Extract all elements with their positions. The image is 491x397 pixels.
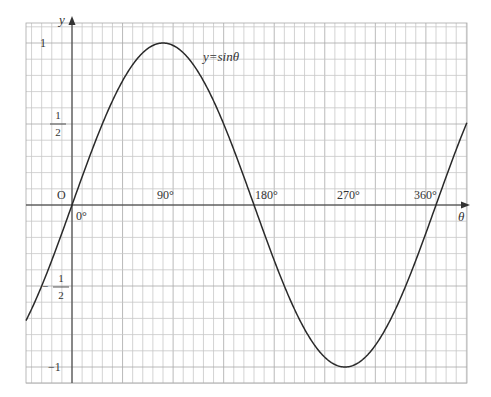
x-tick-90: 90°	[157, 188, 174, 202]
svg-text:2: 2	[58, 289, 64, 301]
x-tick-180: 180°	[255, 188, 278, 202]
svg-text:2: 2	[55, 126, 61, 138]
y-tick-1: 1	[40, 36, 46, 50]
x-axis-label: θ	[458, 209, 465, 224]
x-tick-360: 360°	[414, 188, 437, 202]
svg-text:−: −	[42, 280, 48, 292]
x-tick-270: 270°	[337, 188, 360, 202]
x-axis-arrow-icon	[461, 202, 470, 209]
grid	[26, 23, 467, 383]
origin-label: O	[57, 188, 66, 202]
y-tick-neg1: −1	[48, 360, 61, 374]
svg-text:1: 1	[58, 272, 64, 284]
y-axis-label: y	[57, 12, 65, 27]
svg-text:1: 1	[55, 109, 61, 121]
curve-label: y=sinθ	[201, 49, 240, 64]
y-tick-half: 1 2	[50, 109, 66, 138]
labels: y θ O 0° 90° 180° 270° 360° 1 1 2 − 1 2 …	[40, 12, 465, 374]
y-axis-arrow-icon	[69, 16, 76, 25]
sine-chart: y θ O 0° 90° 180° 270° 360° 1 1 2 − 1 2 …	[0, 0, 491, 397]
x-tick-0: 0°	[76, 209, 87, 223]
